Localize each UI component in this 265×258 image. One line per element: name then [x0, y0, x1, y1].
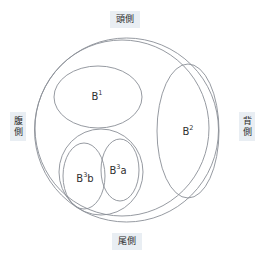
diagram-canvas: 頭側 尾側 腹 側 背 側 B1 B2 B3a B3b: [0, 0, 265, 258]
orientation-label-ventral: 腹 側: [10, 112, 26, 141]
segment-label-b3b-suffix: b: [87, 173, 93, 184]
segment-label-b1-sup: 1: [98, 89, 102, 97]
segment-label-b3a-suffix: a: [120, 165, 126, 176]
segment-label-b2: B2: [182, 126, 193, 137]
orientation-label-ventral-char-1: 腹: [13, 116, 23, 127]
segment-label-b2-base: B: [182, 126, 189, 137]
segment-label-b3b-base: B: [76, 173, 83, 184]
orientation-label-cranial: 頭側: [110, 11, 140, 28]
segment-label-b3a: B3a: [109, 165, 126, 176]
segment-label-b2-sup: 2: [189, 124, 193, 132]
segment-label-b1-base: B: [91, 91, 98, 102]
diagram-shapes: [0, 0, 265, 258]
orientation-label-ventral-char-2: 側: [13, 127, 23, 138]
orientation-label-caudal: 尾側: [112, 233, 142, 250]
orientation-label-dorsal-char-2: 側: [242, 127, 252, 138]
orientation-label-dorsal-char-1: 背: [242, 116, 252, 127]
segment-label-b1: B1: [91, 91, 102, 102]
segment-label-b3a-base: B: [109, 165, 116, 176]
segment-label-b3b: B3b: [76, 173, 93, 184]
orientation-label-dorsal: 背 側: [239, 112, 255, 141]
